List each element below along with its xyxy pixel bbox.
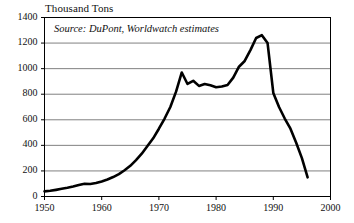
y-tick-label-1000: 1000 <box>4 62 38 73</box>
x-tick-label-1980: 1980 <box>196 202 236 213</box>
x-tick-label-1960: 1960 <box>82 202 122 213</box>
x-tick-label-1970: 1970 <box>139 202 179 213</box>
x-tick-label-2000: 2000 <box>311 202 351 213</box>
y-tick-label-200: 200 <box>4 164 38 175</box>
x-axis-ticks <box>45 197 331 201</box>
plot-frame <box>45 18 331 197</box>
x-tick-label-1950: 1950 <box>25 202 65 213</box>
y-tick-label-1200: 1200 <box>4 36 38 47</box>
x-tick-label-1990: 1990 <box>253 202 293 213</box>
chart-plot-area <box>0 0 354 223</box>
chart-container: Thousand Tons Source: DuPont, Worldwatch… <box>0 0 354 223</box>
data-series-line <box>45 35 308 191</box>
y-tick-label-800: 800 <box>4 87 38 98</box>
gridlines-group <box>45 43 331 171</box>
y-axis-ticks <box>41 18 45 197</box>
y-tick-label-600: 600 <box>4 113 38 124</box>
y-tick-label-1400: 1400 <box>4 11 38 22</box>
y-tick-label-400: 400 <box>4 138 38 149</box>
y-tick-label-0: 0 <box>4 190 38 201</box>
